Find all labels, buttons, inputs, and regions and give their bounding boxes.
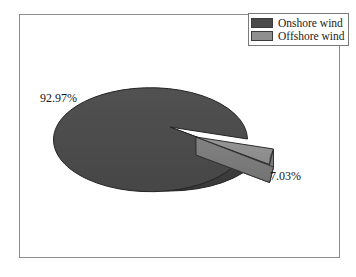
legend-label-onshore-wind: Onshore wind <box>278 17 343 29</box>
legend-label-offshore-wind: Offshore wind <box>278 30 345 42</box>
pie-slice-onshore <box>54 88 248 192</box>
data-label-onshore: 92.97% <box>40 91 77 106</box>
legend-swatch-offshore-wind <box>251 31 273 41</box>
legend-item-offshore-wind[interactable]: Offshore wind <box>251 30 345 42</box>
data-label-offshore: 7.03% <box>270 169 301 184</box>
chart-legend: Onshore wind Offshore wind <box>248 13 349 46</box>
legend-swatch-onshore-wind <box>251 18 273 28</box>
chart-screenshot: 92.97% 7.03% Onshore wind Offshore wind <box>0 0 356 277</box>
legend-item-onshore-wind[interactable]: Onshore wind <box>251 17 345 29</box>
